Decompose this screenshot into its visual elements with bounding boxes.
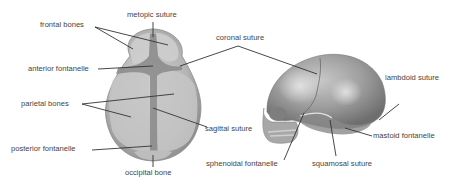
label-coronal-suture: coronal suture [216,34,264,42]
label-posterior-fontanelle: posterior fontanelle [11,145,76,153]
skull-diagram: frontal bones metopic suture coronal sut… [0,0,457,189]
side-view-skull [263,54,386,143]
label-lambdoid-suture: lambdoid suture [385,74,439,82]
label-parietal-bones: parietal bones [21,100,69,108]
label-metopic-suture: metopic suture [127,11,177,19]
label-sagittal-suture: sagittal suture [205,125,252,133]
top-view-skull [106,29,201,161]
label-anterior-fontanelle: anterior fontanelle [28,65,89,73]
label-occipital-bone: occipital bone [125,169,171,177]
label-mastoid-fontanelle: mastoid fontanelle [373,132,435,140]
label-sphenoidal-fontanelle: sphenoidal fontanelle [206,160,278,168]
label-frontal-bones: frontal bones [40,21,84,29]
label-squamosal-suture: squamosal suture [312,160,372,168]
